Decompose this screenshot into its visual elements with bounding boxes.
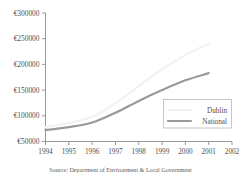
y-axis-ticks: €50000€100000€150000€200000€250000€30000…: [14, 9, 46, 147]
y-tick-label: €100000: [14, 111, 40, 120]
legend-label-national: National: [202, 118, 227, 126]
line-chart: €50000€100000€150000€200000€250000€30000…: [0, 0, 241, 180]
y-tick-label: €50000: [17, 137, 39, 146]
x-tick-label: 2000: [178, 148, 193, 156]
x-tick-label: 2001: [202, 148, 217, 156]
x-tick-label: 1998: [132, 148, 147, 156]
chart-legend: Dublin National: [164, 100, 232, 129]
source-caption: Source: Department of Environment & Loca…: [49, 167, 192, 173]
x-tick-label: 1995: [62, 148, 77, 156]
y-tick-label: €250000: [14, 34, 40, 43]
y-tick-label: €300000: [14, 9, 40, 18]
x-tick-label: 1996: [85, 148, 100, 156]
y-tick-label: €150000: [14, 86, 40, 95]
x-tick-label: 1994: [38, 148, 53, 156]
legend-label-dublin: Dublin: [207, 107, 227, 115]
x-tick-label: 1997: [108, 148, 123, 156]
x-tick-label: 1999: [155, 148, 170, 156]
y-tick-label: €200000: [14, 60, 40, 69]
x-tick-label: 2002: [225, 148, 240, 156]
chart-container: €50000€100000€150000€200000€250000€30000…: [0, 0, 241, 180]
x-axis-ticks: 199419951996199719981999200020012002: [38, 142, 239, 156]
